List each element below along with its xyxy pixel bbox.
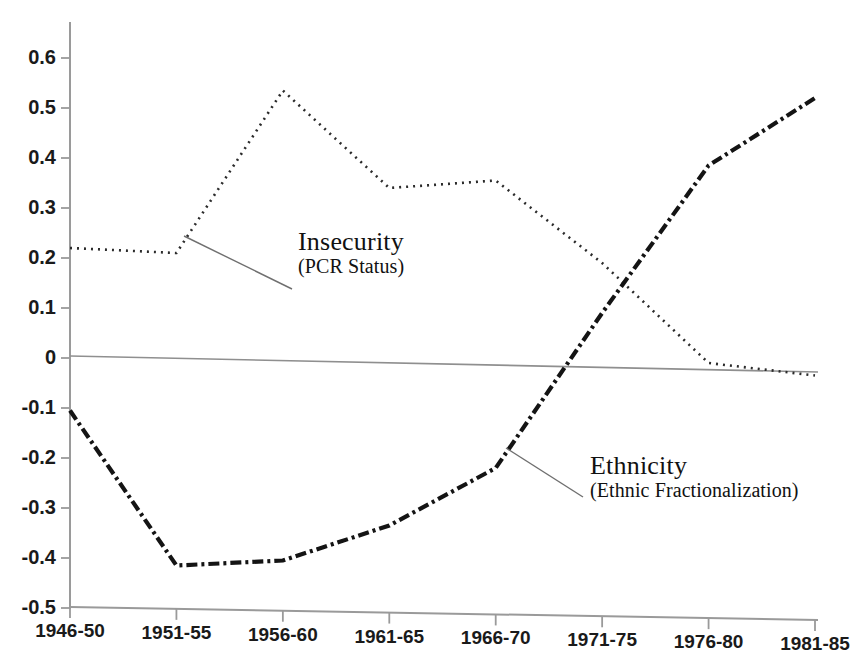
- x-axis-tick-label: 1956-60: [223, 625, 343, 645]
- y-axis-tick-label: 0.5: [0, 97, 56, 117]
- x-axis-tick-label: 1951-55: [116, 623, 236, 643]
- y-axis-tick-label: 0.6: [0, 47, 56, 67]
- annotation-insecurity-label: Insecurity: [298, 228, 404, 255]
- x-axis-line: [70, 607, 818, 620]
- y-axis-tick-label: -0.5: [0, 597, 56, 617]
- series-line-insecurity: [70, 91, 815, 376]
- annotation-ethnicity-label: Ethnicity: [590, 452, 799, 479]
- y-axis-tick-label: 0.2: [0, 247, 56, 267]
- y-axis-tick-label: -0.4: [0, 547, 56, 567]
- y-axis-tick-label: -0.1: [0, 397, 56, 417]
- y-axis-tick-label: 0.1: [0, 297, 56, 317]
- y-axis-tick-label: 0: [0, 347, 56, 367]
- x-axis-tick-label: 1981-85: [755, 634, 864, 654]
- zero-reference-line: [70, 356, 818, 372]
- x-axis-tick-label: 1966-70: [436, 628, 556, 648]
- chart-container: 0.60.50.40.30.20.10-0.1-0.2-0.3-0.4-0.5 …: [0, 0, 864, 668]
- leader-line-ethnicity: [506, 448, 583, 497]
- y-axis-tick-label: -0.3: [0, 497, 56, 517]
- x-axis-tick-label: 1971-75: [542, 630, 662, 650]
- annotation-ethnicity-sublabel: (Ethnic Fractionalization): [590, 479, 799, 501]
- y-axis-tick-label: 0.4: [0, 147, 56, 167]
- x-axis-tick-label: 1976-80: [649, 632, 769, 652]
- y-axis-tick-label: -0.2: [0, 447, 56, 467]
- y-axis-tick-label: 0.3: [0, 197, 56, 217]
- annotation-ethnicity: Ethnicity (Ethnic Fractionalization): [590, 452, 799, 501]
- chart-plot-area: [0, 0, 864, 668]
- y-axis-ticks: [61, 58, 70, 608]
- annotation-insecurity: Insecurity (PCR Status): [298, 228, 404, 277]
- x-axis-tick-label: 1961-65: [329, 627, 449, 647]
- leader-line-insecurity: [184, 236, 292, 289]
- x-axis-tick-label: 1946-50: [10, 621, 130, 641]
- annotation-insecurity-sublabel: (PCR Status): [298, 255, 404, 277]
